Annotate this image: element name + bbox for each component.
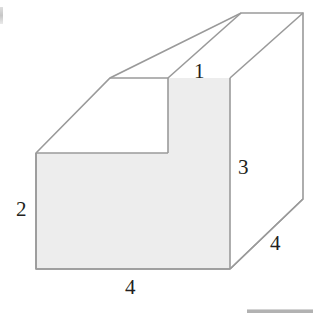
dimension-label-top-small: 1 xyxy=(194,61,205,82)
figure-canvas: 1 3 2 4 4 xyxy=(0,0,316,320)
cropped-panel-edge xyxy=(247,309,313,313)
dimension-label-depth: 4 xyxy=(270,233,281,254)
step-solid-figure xyxy=(0,0,316,320)
dimension-label-front-width: 4 xyxy=(125,277,136,298)
step-top-face xyxy=(36,78,168,153)
page-edge-artifact xyxy=(0,7,3,24)
dimension-label-left-height: 2 xyxy=(16,199,27,220)
dimension-label-right-height: 3 xyxy=(238,157,249,178)
